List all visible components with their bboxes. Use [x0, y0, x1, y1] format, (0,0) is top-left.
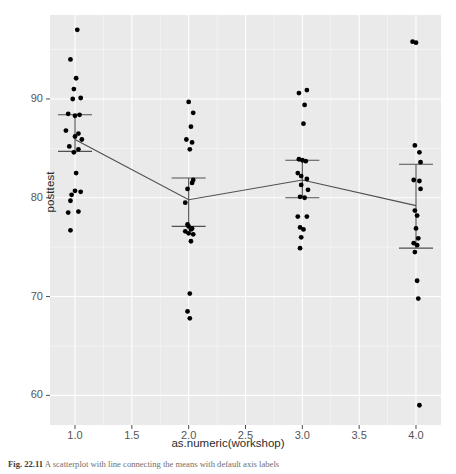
y-axis-title: posttest	[44, 142, 56, 242]
y-tick-label: 90	[15, 92, 43, 104]
figure-caption-number: Fig. 22.11	[8, 459, 43, 469]
plot-area: 60708090 1.01.52.02.53.03.54.0 posttest …	[0, 0, 456, 450]
x-axis-title: as.numeric(workshop)	[0, 437, 456, 449]
figure-container: 60708090 1.01.52.02.53.03.54.0 posttest …	[0, 0, 456, 474]
figure-caption: Fig. 22.11 A scatterplot with line conne…	[8, 459, 456, 470]
y-tick-label: 60	[15, 388, 43, 400]
y-tick-label: 70	[15, 290, 43, 302]
y-tick-label: 80	[15, 191, 43, 203]
chart-svg	[0, 0, 456, 450]
figure-caption-text: A scatterplot with line connecting the m…	[45, 459, 279, 469]
